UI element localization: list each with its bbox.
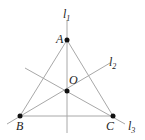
label-l2: l2 [109, 55, 116, 71]
triangle-diagram: A B C O l1 l2 l3 [0, 0, 145, 140]
label-l1: l1 [63, 7, 70, 23]
label-b: B [16, 119, 24, 133]
point-o [65, 89, 70, 94]
label-c: C [106, 119, 115, 133]
label-l3: l3 [128, 119, 135, 135]
point-b [18, 114, 23, 119]
point-c [111, 114, 116, 119]
label-a: A [55, 32, 64, 46]
line-l2 [7, 63, 110, 124]
point-a [65, 38, 70, 43]
label-o: O [69, 73, 78, 87]
